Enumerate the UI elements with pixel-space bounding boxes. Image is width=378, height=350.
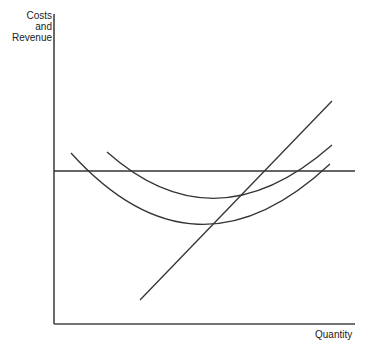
chart-canvas (0, 0, 378, 350)
upward-sloping-line (140, 101, 332, 300)
lower-u-curve (71, 153, 330, 224)
